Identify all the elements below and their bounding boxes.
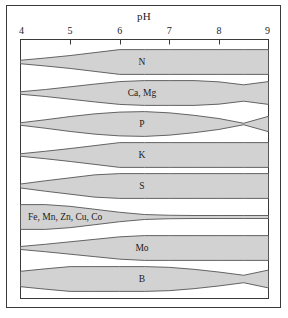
band-label-mo: Mo <box>135 243 148 253</box>
band-label-s: S <box>139 181 144 191</box>
nutrient-availability-figure: pH 456789 NCa, MgPKSFe, Mn, Zn, Cu, CoMo… <box>0 0 288 318</box>
band-label-n: N <box>139 57 146 67</box>
band-label-ca-mg: Ca, Mg <box>128 88 157 98</box>
band-label-fe-mn-zn-cu-co: Fe, Mn, Zn, Cu, Co <box>28 212 103 222</box>
plot-area: NCa, MgPKSFe, Mn, Zn, Cu, CoMoB <box>0 0 288 318</box>
band-label-k: K <box>139 150 146 160</box>
band-label-b: B <box>139 274 145 284</box>
band-label-p: P <box>139 119 144 129</box>
